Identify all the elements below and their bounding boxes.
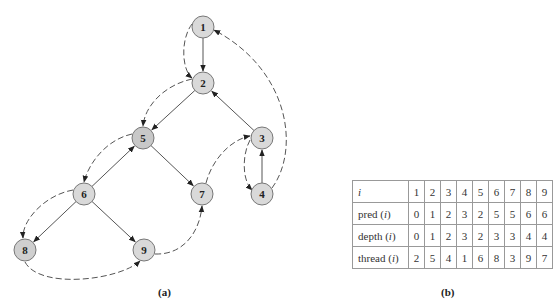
thread-edges [23,24,286,279]
table-cell: 6 [489,181,505,203]
table-cell: 0 [409,225,425,247]
table-cell: 2 [473,203,489,225]
tree-edge-5-7 [151,146,193,186]
table-cell: 8 [521,181,537,203]
node-label: 5 [140,132,146,144]
table-cell: 5 [425,247,441,269]
table-cell: 2 [441,225,457,247]
tree-diagram: 123456789 [0,0,320,280]
row-header: depth (i) [353,225,409,247]
thread-edge-2-5 [143,79,192,126]
table-cell: 1 [409,181,425,203]
row-header: thread (i) [353,247,409,269]
caption-b: (b) [441,286,454,298]
table-cell: 2 [425,181,441,203]
table-cell: 5 [505,203,521,225]
table-cell: 8 [489,247,505,269]
node-label: 7 [199,188,205,200]
table-cell: 3 [505,225,521,247]
table-cell: 4 [537,225,553,247]
node-8: 8 [14,239,36,261]
node-label: 9 [141,244,147,256]
node-2: 2 [192,72,214,94]
table-row: thread (i)254168397 [353,247,553,269]
caption-a: (a) [158,286,171,298]
tree-edge-6-5 [92,146,134,186]
table-cell: 9 [521,247,537,269]
row-header: pred (i) [353,203,409,225]
node-label: 6 [81,188,87,200]
table-cell: 4 [441,247,457,269]
table-cell: 3 [457,203,473,225]
node-1: 1 [192,16,214,38]
table-cell: 6 [521,203,537,225]
thread-edge-6-8 [23,190,73,238]
tree-edge-6-8 [34,202,76,242]
thread-edge-3-4 [244,140,252,190]
thread-edge-8-9 [25,261,140,279]
table-cell: 1 [425,225,441,247]
table-cell: 3 [489,225,505,247]
table-cell: 3 [457,225,473,247]
node-label: 4 [259,188,265,200]
thread-edge-1-2 [184,24,192,78]
table-cell: 1 [457,247,473,269]
tree-edge-6-9 [92,202,135,242]
table-cell: 2 [441,203,457,225]
table-cell: 6 [537,203,553,225]
node-5: 5 [132,127,154,149]
node-label: 1 [200,21,206,33]
table-cell: 2 [409,247,425,269]
tree-edge-3-2 [212,91,254,130]
table-row: pred (i)012325566 [353,203,553,225]
thread-index-table: i123456789pred (i)012325566depth (i)0123… [352,180,553,269]
thread-edge-5-6 [84,134,132,182]
table-cell: 4 [457,181,473,203]
node-9: 9 [133,239,155,261]
table-cell: 7 [505,181,521,203]
table-cell: 5 [473,181,489,203]
node-label: 2 [200,77,206,89]
table-cell: 1 [425,203,441,225]
node-label: 3 [259,132,265,144]
thread-edge-7-3 [206,136,250,183]
table-cell: 3 [505,247,521,269]
table-cell: 4 [521,225,537,247]
table-cell: 6 [473,247,489,269]
node-7: 7 [191,183,213,205]
table-cell: 5 [489,203,505,225]
node-3: 3 [251,127,273,149]
thread-edge-4-1 [214,30,286,188]
table-row: i123456789 [353,181,553,203]
node-6: 6 [73,183,95,205]
table-cell: 7 [537,247,553,269]
table-row: depth (i)012323344 [353,225,553,247]
node-4: 4 [251,183,273,205]
row-header: i [353,181,409,203]
table-cell: 3 [441,181,457,203]
node-label: 8 [22,244,28,256]
table-cell: 0 [409,203,425,225]
table-cell: 9 [537,181,553,203]
thread-edge-9-7 [155,206,202,254]
table-cell: 2 [473,225,489,247]
